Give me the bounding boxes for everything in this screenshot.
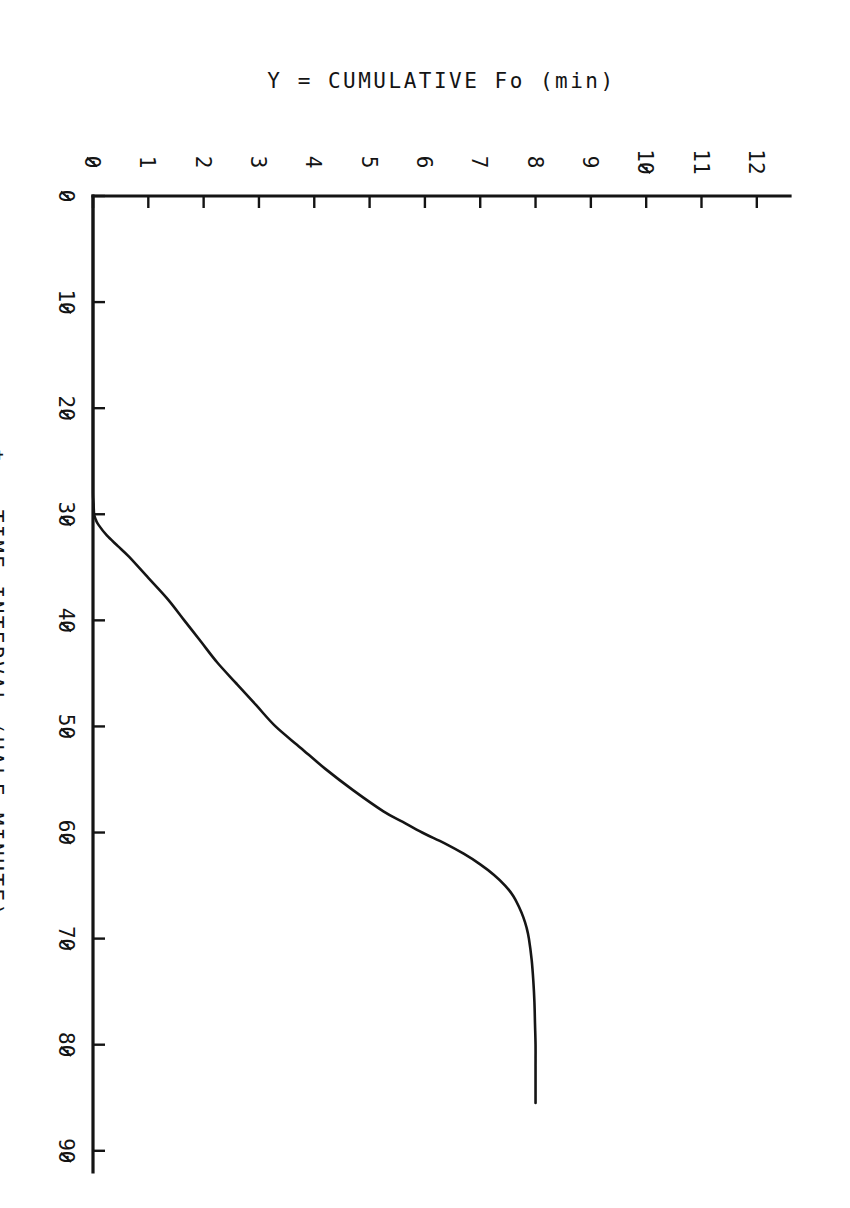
svg-text:60: 60 bbox=[54, 820, 78, 845]
tick-label: 11 bbox=[688, 149, 712, 174]
svg-text:70: 70 bbox=[54, 926, 78, 951]
plot-area: 0102030405060708090 0123456789101112 t =… bbox=[0, 0, 850, 1208]
tick-label: 2 bbox=[191, 156, 215, 169]
tick-label: 3 bbox=[246, 156, 270, 169]
svg-text:10: 10 bbox=[633, 149, 657, 174]
svg-text:11: 11 bbox=[688, 149, 712, 174]
tick-label: 7 bbox=[467, 156, 491, 169]
svg-text:12: 12 bbox=[744, 149, 768, 174]
tick-label: 20 bbox=[54, 396, 78, 421]
tick-label: 40 bbox=[54, 608, 78, 633]
svg-text:20: 20 bbox=[54, 396, 78, 421]
tick-label: 4 bbox=[301, 156, 325, 169]
svg-text:30: 30 bbox=[54, 502, 78, 527]
svg-text:50: 50 bbox=[54, 714, 78, 739]
svg-text:9: 9 bbox=[578, 156, 602, 169]
tick-label: 0 bbox=[80, 156, 104, 169]
tick-label: 12 bbox=[744, 149, 768, 174]
tick-label: 5 bbox=[357, 156, 381, 169]
y-tick-labels: 0123456789101112 bbox=[80, 149, 768, 174]
y-axis-title: Y = CUMULATIVE Fo (min) bbox=[267, 69, 615, 93]
svg-text:4: 4 bbox=[301, 156, 325, 169]
tick-label: 0 bbox=[54, 190, 78, 203]
svg-text:40: 40 bbox=[54, 608, 78, 633]
rotated-figure-stage: 0102030405060708090 0123456789101112 t =… bbox=[0, 0, 850, 1208]
cumulative-fo-curve bbox=[93, 196, 536, 1103]
tick-label: 10 bbox=[633, 149, 657, 174]
cumulative-fo-chart: 0102030405060708090 0123456789101112 t =… bbox=[0, 0, 850, 1208]
figure-page: 0102030405060708090 0123456789101112 t =… bbox=[0, 0, 850, 1208]
tick-label: 80 bbox=[54, 1032, 78, 1057]
tick-label: 6 bbox=[412, 156, 436, 169]
tick-label: 8 bbox=[523, 156, 547, 169]
svg-text:6: 6 bbox=[412, 156, 436, 169]
svg-text:2: 2 bbox=[191, 156, 215, 169]
tick-label: 50 bbox=[54, 714, 78, 739]
x-tick-group bbox=[93, 196, 105, 1151]
x-axis-title: t = TIME INTERVAL (HALF MINUTE) bbox=[0, 449, 7, 918]
svg-text:8: 8 bbox=[523, 156, 547, 169]
x-tick-labels: 0102030405060708090 bbox=[54, 190, 78, 1164]
svg-text:80: 80 bbox=[54, 1032, 78, 1057]
y-tick-group bbox=[93, 196, 757, 208]
tick-label: 60 bbox=[54, 820, 78, 845]
tick-label: 90 bbox=[54, 1138, 78, 1163]
svg-text:3: 3 bbox=[246, 156, 270, 169]
svg-text:1: 1 bbox=[135, 156, 159, 169]
tick-label: 1 bbox=[135, 156, 159, 169]
svg-text:10: 10 bbox=[54, 289, 78, 314]
tick-label: 10 bbox=[54, 289, 78, 314]
tick-label: 9 bbox=[578, 156, 602, 169]
axes-group bbox=[93, 196, 790, 1172]
svg-text:7: 7 bbox=[467, 156, 491, 169]
tick-label: 70 bbox=[54, 926, 78, 951]
svg-text:90: 90 bbox=[54, 1138, 78, 1163]
svg-text:5: 5 bbox=[357, 156, 381, 169]
tick-label: 30 bbox=[54, 502, 78, 527]
